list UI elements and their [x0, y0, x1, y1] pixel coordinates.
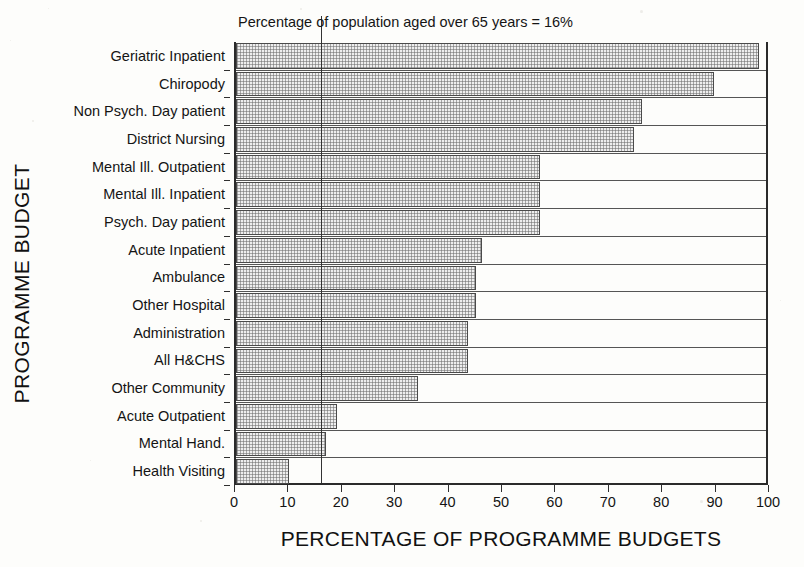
bar [236, 99, 642, 124]
y-axis-tick-mark [224, 347, 230, 348]
bar [236, 266, 476, 291]
x-axis-tick-mark [287, 485, 288, 492]
y-axis-tick-mark [224, 319, 230, 320]
x-axis-tick-label: 100 [756, 494, 780, 510]
y-axis-tick-label: Administration [133, 326, 225, 341]
bar-row [236, 347, 766, 375]
x-axis-tick-mark [768, 485, 769, 492]
y-axis-tick-label: Acute Inpatient [128, 243, 225, 258]
y-axis-tick-label: Health Visiting [133, 464, 225, 479]
y-axis-tick-mark [224, 291, 230, 292]
y-axis-tick-label: Mental Ill. Outpatient [92, 160, 225, 175]
x-axis-tick-mark [234, 485, 235, 492]
bar-row [236, 264, 766, 292]
bar-series [236, 42, 766, 483]
x-axis-tick-label: 10 [279, 494, 295, 510]
x-axis-tick-mark [394, 485, 395, 492]
bar [236, 349, 468, 374]
y-axis-tick-mark [224, 153, 230, 154]
bar-chart: PROGRAMME BUDGET Geriatric InpatientChir… [0, 0, 804, 567]
y-axis-tick-mark [224, 430, 230, 431]
x-axis-tick-mark [501, 485, 502, 492]
bar-row [236, 97, 766, 125]
bar-row [236, 236, 766, 264]
x-axis-tick-mark [661, 485, 662, 492]
x-axis-ticks: 0102030405060708090100 [234, 485, 768, 519]
y-axis-tick-label: Ambulance [152, 270, 225, 285]
bar [236, 459, 289, 484]
x-axis-tick-label: 20 [333, 494, 349, 510]
x-axis-tick-label: 70 [600, 494, 616, 510]
bar-row [236, 319, 766, 347]
y-axis-tick-label: Non Psych. Day patient [73, 104, 225, 119]
bar-row [236, 42, 766, 70]
y-axis-tick-label: District Nursing [127, 132, 225, 147]
bar-row [236, 208, 766, 236]
y-axis-tick-mark [224, 264, 230, 265]
y-axis-tick-mark [224, 402, 230, 403]
y-axis-tick-label: All H&CHS [154, 353, 225, 368]
bar-row [236, 291, 766, 319]
bar-row [236, 457, 766, 485]
x-axis-tick-mark [341, 485, 342, 492]
plot-area [234, 42, 768, 485]
bar-row [236, 153, 766, 181]
reference-line-annotation: Percentage of population aged over 65 ye… [238, 14, 573, 30]
y-axis-tick-label: Other Hospital [132, 298, 225, 313]
x-axis-title: PERCENTAGE OF PROGRAMME BUDGETS [234, 527, 768, 551]
y-axis-tick-mark [224, 236, 230, 237]
x-axis-tick-mark [608, 485, 609, 492]
x-axis-tick-mark [448, 485, 449, 492]
bar [236, 376, 418, 401]
y-axis-tick-mark [224, 374, 230, 375]
bar-row [236, 374, 766, 402]
y-axis-category-labels: Geriatric InpatientChiropodyNon Psych. D… [0, 42, 230, 485]
reference-line-65-plus [321, 16, 322, 483]
x-axis-tick-label: 30 [386, 494, 402, 510]
x-axis-tick-label: 90 [707, 494, 723, 510]
x-axis-tick-label: 60 [546, 494, 562, 510]
y-axis-tick-mark [224, 125, 230, 126]
y-axis-tick-label: Chiropody [159, 77, 225, 92]
bar [236, 72, 714, 97]
x-axis-tick-label: 50 [493, 494, 509, 510]
x-axis-tick-mark [715, 485, 716, 492]
y-axis-tick-mark [224, 457, 230, 458]
y-axis-tick-mark [224, 485, 230, 486]
bar-row [236, 70, 766, 98]
x-axis-tick-label: 80 [653, 494, 669, 510]
bar-row [236, 430, 766, 458]
x-axis-tick-label: 0 [230, 494, 238, 510]
bar [236, 155, 540, 180]
y-axis-tick-mark [224, 70, 230, 71]
y-axis-tick-label: Mental Ill. Inpatient [103, 187, 225, 202]
y-axis-tick-label: Acute Outpatient [117, 409, 225, 424]
y-axis-tick-label: Geriatric Inpatient [111, 49, 225, 64]
bar-row [236, 125, 766, 153]
y-axis-tick-label: Mental Hand. [139, 436, 225, 451]
x-axis-tick-label: 40 [440, 494, 456, 510]
bar [236, 127, 634, 152]
y-axis-tick-mark [224, 208, 230, 209]
y-axis-tick-label: Other Community [111, 381, 225, 396]
bar-row [236, 180, 766, 208]
bar [236, 210, 540, 235]
bar [236, 43, 759, 69]
y-axis-tick-mark [224, 180, 230, 181]
bar [236, 182, 540, 207]
y-axis-tick-label: Psych. Day patient [104, 215, 225, 230]
bar-row [236, 402, 766, 430]
bar [236, 432, 326, 457]
y-axis-tick-mark [224, 97, 230, 98]
bar [236, 321, 468, 346]
x-axis-tick-mark [554, 485, 555, 492]
bar [236, 238, 482, 263]
bar [236, 293, 476, 318]
